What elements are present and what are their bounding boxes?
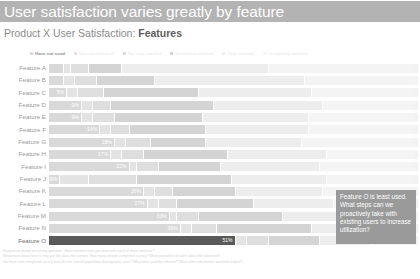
chart-bar-segment: [159, 162, 221, 171]
legend-item[interactable]: Not very satisfied: [123, 51, 162, 56]
chart-bar-segment: [93, 101, 111, 110]
chart-row-label: Feature O: [0, 238, 49, 244]
chart-bar-segment: 27%: [49, 199, 148, 208]
chart-bar-segment: [327, 150, 415, 159]
chart-row-label: Feature B: [0, 77, 49, 83]
chart-bar-value-label: 27%: [135, 201, 147, 206]
chart-bar-segment: [64, 76, 75, 85]
legend-swatch-icon: [74, 52, 77, 55]
chart-bar-segment: [137, 175, 232, 184]
chart-row-label: Feature G: [0, 139, 49, 145]
chart-row-label: Feature F: [0, 127, 49, 133]
chart-bar-segment: [148, 199, 159, 208]
legend-item-label: Somewhat satisfied: [175, 51, 213, 56]
chart-bar-value-label: 36%: [168, 226, 180, 231]
legend-item[interactable]: Very satisfied: [222, 51, 253, 56]
chart-bar-segment: [64, 64, 71, 73]
chart-bar-segment: [173, 187, 235, 196]
chart-bar-segment: [236, 236, 247, 245]
legend-item-label: Very satisfied: [227, 51, 253, 56]
chart-bar-segment: 22%: [49, 162, 130, 171]
chart-bar-segment: [89, 64, 122, 73]
chart-bar-segment: [177, 199, 254, 208]
legend-swatch-icon: [170, 52, 173, 55]
chart-bar-segment: [49, 76, 64, 85]
chart-bar-segment: [206, 125, 308, 134]
chart-bar-value-label: 3%: [50, 177, 59, 182]
chart-row-label: Feature I: [0, 164, 49, 170]
chart-row-label: Feature E: [0, 114, 49, 120]
legend-item-label: Have not used: [35, 51, 65, 56]
chart-row-track: 3%: [49, 175, 418, 184]
chart-subtitle: Product X User Satisfaction: Features: [4, 27, 182, 39]
chart-bar-segment: [75, 76, 97, 85]
chart-bar-segment: [126, 138, 152, 147]
legend-item[interactable]: Not satisfied at all: [74, 51, 114, 56]
chart-bar-value-label: 26%: [131, 189, 143, 194]
chart-row-track: 14%: [49, 125, 418, 134]
chart-bar-segment: [309, 113, 415, 122]
chart-bar-segment: [130, 162, 137, 171]
chart-bar-value-label: 9%: [72, 115, 81, 120]
chart-bar-segment: [192, 224, 218, 233]
chart-bar-segment: 36%: [49, 224, 181, 233]
chart-bar-segment: [71, 64, 89, 73]
annotation-callout: Feature O is least used. What steps can …: [336, 190, 416, 244]
chart-bar-segment: [67, 88, 78, 97]
chart-bar-segment: [49, 64, 64, 73]
legend-item[interactable]: Completely satisfied: [263, 51, 307, 56]
chart-row-track: [49, 76, 418, 85]
chart-bar-segment: 3%: [49, 175, 60, 184]
chart-bar-segment: [305, 76, 415, 85]
chart-subtitle-emphasis: Features: [138, 27, 182, 39]
chart-bar-segment: [111, 125, 129, 134]
chart-bar-value-label: 33%: [157, 214, 169, 219]
chart-bar-segment: [60, 175, 89, 184]
legend-swatch-icon: [30, 52, 33, 55]
chart-bar-segment: [199, 212, 283, 221]
chart-bar-segment: [137, 162, 159, 171]
legend-swatch-icon: [263, 52, 266, 55]
chart-row-track: [49, 64, 418, 73]
chart-bar-segment: [312, 88, 414, 97]
chart-row: Feature C5%: [0, 87, 420, 99]
chart-bar-segment: 5%: [49, 88, 67, 97]
chart-bar-segment: 51%: [49, 236, 236, 245]
chart-bar-segment: [100, 125, 111, 134]
chart-row-track: 5%: [49, 88, 418, 97]
page-title: User satisfaction varies greatly by feat…: [0, 3, 284, 21]
chart-row: Feature H17%: [0, 148, 420, 160]
chart-row-label: Feature M: [0, 213, 49, 219]
legend-item[interactable]: Have not used: [30, 51, 65, 56]
chart-bar-segment: [144, 187, 155, 196]
chart-bar-segment: [221, 162, 320, 171]
chart-bar-segment: [199, 88, 312, 97]
legend-item[interactable]: Somewhat satisfied: [170, 51, 213, 56]
chart-row-label: Feature C: [0, 90, 49, 96]
chart-row-track: 17%: [49, 150, 418, 159]
chart-bar-value-label: 18%: [102, 140, 114, 145]
chart-row-label: Feature H: [0, 151, 49, 157]
chart-row-label: Feature J: [0, 176, 49, 182]
chart-row-label: Feature A: [0, 65, 49, 71]
chart-bar-segment: [115, 138, 126, 147]
chart-bar-segment: [130, 125, 207, 134]
chart-bar-segment: 26%: [49, 187, 144, 196]
chart-bar-segment: [247, 236, 269, 245]
chart-bar-segment: [115, 113, 203, 122]
chart-bar-segment: [82, 101, 93, 110]
chart-bar-segment: [228, 150, 327, 159]
chart-bar-segment: [89, 175, 137, 184]
chart-bar-segment: 17%: [49, 150, 111, 159]
chart-bar-segment: [122, 150, 144, 159]
chart-row: Feature G18%: [0, 136, 420, 148]
chart-bar-segment: [206, 138, 301, 147]
chart-row-track: 18%: [49, 138, 418, 147]
chart-bar-segment: [144, 150, 228, 159]
chart-subtitle-prefix: Product X User Satisfaction:: [4, 27, 138, 39]
chart-bar-segment: [93, 113, 115, 122]
chart-bar-segment: [177, 212, 199, 221]
chart-bar-segment: [236, 187, 324, 196]
chart-row: Feature B: [0, 74, 420, 86]
chart-bar-segment: [122, 64, 268, 73]
